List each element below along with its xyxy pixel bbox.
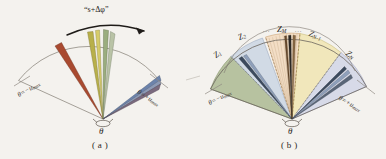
panel-a-theta-label: θ [99,126,103,136]
zm-dots-left: ∙∙∙ [263,28,271,34]
panel-b-caption: ( b ) [281,140,298,150]
panel-a-caption: ( a ) [92,140,108,150]
zm-dots-right: ∙∙∙ [295,28,303,34]
panel-b-theta-label: θ [288,126,292,136]
figure-canvas [0,0,386,159]
zone-label-zm: ZM [277,24,286,34]
panel-a-arc-label: “s+Δφ” [84,5,109,14]
